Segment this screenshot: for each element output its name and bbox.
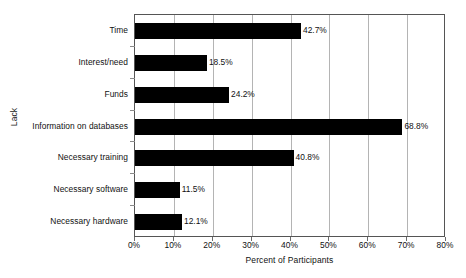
bar bbox=[135, 87, 229, 103]
bar-chart: Lack TimeInterest/needFundsInformation o… bbox=[0, 0, 466, 278]
bar-value-label: 18.5% bbox=[209, 57, 233, 67]
x-axis-tick-label: 80% bbox=[425, 240, 465, 250]
y-axis-tick bbox=[130, 173, 135, 174]
bar bbox=[135, 214, 182, 230]
plot-area bbox=[134, 14, 445, 237]
category-label: Necessary software bbox=[54, 184, 128, 194]
x-axis-tick-label: 20% bbox=[192, 240, 232, 250]
category-label: Necessary training bbox=[58, 152, 128, 162]
x-axis-tick-label: 50% bbox=[308, 240, 348, 250]
category-label: Interest/need bbox=[78, 57, 128, 67]
bar-value-label: 40.8% bbox=[296, 152, 320, 162]
y-axis-tick bbox=[130, 46, 135, 47]
bar-value-label: 68.8% bbox=[404, 121, 428, 131]
x-axis-tick-label: 30% bbox=[231, 240, 271, 250]
bar-value-label: 24.2% bbox=[231, 89, 255, 99]
x-axis-tick-label: 0% bbox=[114, 240, 154, 250]
x-axis-tick-label: 10% bbox=[153, 240, 193, 250]
y-axis-category-labels: TimeInterest/needFundsInformation on dat… bbox=[0, 14, 130, 237]
y-axis-tick bbox=[130, 110, 135, 111]
bar-value-label: 12.1% bbox=[184, 216, 208, 226]
category-label: Necessary hardware bbox=[50, 216, 128, 226]
bar bbox=[135, 182, 180, 198]
bar bbox=[135, 150, 294, 166]
bar-value-label: 11.5% bbox=[182, 184, 205, 194]
bar bbox=[135, 23, 301, 39]
bar bbox=[135, 55, 207, 71]
y-axis-tick bbox=[130, 78, 135, 79]
category-label: Funds bbox=[104, 89, 128, 99]
x-axis-tick-label: 40% bbox=[270, 240, 310, 250]
y-axis-tick bbox=[130, 141, 135, 142]
x-axis-tick-label: 70% bbox=[386, 240, 426, 250]
x-axis-title: Percent of Participants bbox=[134, 255, 445, 265]
bar-value-label: 42.7% bbox=[303, 25, 327, 35]
category-label: Information on databases bbox=[32, 121, 128, 131]
bar bbox=[135, 119, 402, 135]
category-label: Time bbox=[110, 25, 129, 35]
x-axis-tick-label: 60% bbox=[347, 240, 387, 250]
y-axis-tick bbox=[130, 205, 135, 206]
